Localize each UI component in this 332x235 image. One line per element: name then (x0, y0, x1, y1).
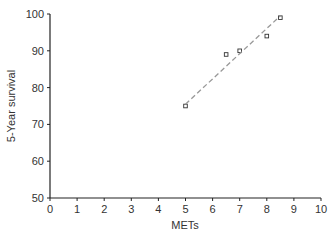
scatter-chart: 5060708090100012345678910 5-Year surviva… (0, 0, 332, 235)
y-axis-label: 5-Year survival (5, 70, 17, 142)
x-tick-label: 1 (74, 203, 80, 215)
trend-line (186, 16, 281, 104)
y-tick-label: 60 (32, 155, 44, 167)
x-tick-label: 2 (101, 203, 107, 215)
y-tick-label: 70 (32, 118, 44, 130)
plot-area: 5060708090100012345678910 (26, 8, 327, 215)
x-tick-label: 0 (47, 203, 53, 215)
y-tick-label: 100 (26, 8, 44, 20)
x-tick-label: 6 (210, 203, 216, 215)
x-tick-label: 4 (155, 203, 161, 215)
x-tick-label: 7 (237, 203, 243, 215)
x-axis-label: METs (171, 219, 199, 231)
x-tick-label: 8 (264, 203, 270, 215)
y-tick-label: 90 (32, 45, 44, 57)
y-tick-label: 80 (32, 82, 44, 94)
data-point-marker (265, 34, 269, 38)
x-tick-label: 5 (182, 203, 188, 215)
data-point-marker (224, 53, 228, 57)
data-point-marker (184, 104, 188, 108)
y-tick-label: 50 (32, 192, 44, 204)
x-tick-label: 10 (315, 203, 327, 215)
x-tick-label: 9 (291, 203, 297, 215)
x-tick-label: 3 (128, 203, 134, 215)
